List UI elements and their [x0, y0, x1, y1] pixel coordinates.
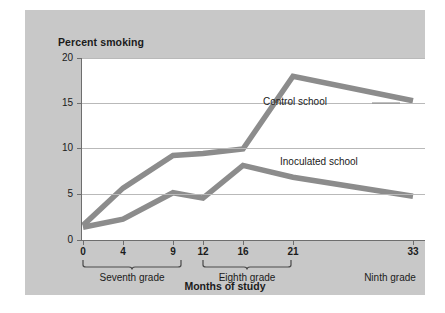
x-tick-label-16: 16	[230, 246, 256, 257]
x-tick-label-0: 0	[70, 246, 96, 257]
series-line-control	[83, 76, 413, 225]
y-tick-mark-15	[77, 103, 81, 104]
x-axis-line	[81, 240, 425, 241]
x-tick-mark-0	[83, 241, 84, 245]
x-tick-label-21: 21	[280, 246, 306, 257]
y-tick-mark-10	[77, 148, 81, 149]
y-tick-label-0: 0	[49, 234, 73, 245]
x-tick-label-33: 33	[400, 246, 426, 257]
x-tick-label-9: 9	[160, 246, 186, 257]
plot-area	[82, 58, 425, 240]
x-tick-label-4: 4	[110, 246, 136, 257]
y-tick-label-5: 5	[49, 188, 73, 199]
x-tick-mark-21	[293, 241, 294, 245]
series-line-inoculated	[83, 165, 413, 227]
y-tick-label-20: 20	[49, 52, 73, 63]
x-tick-mark-12	[203, 241, 204, 245]
x-tick-mark-4	[123, 241, 124, 245]
y-tick-label-15: 15	[49, 97, 73, 108]
gridline-15	[82, 103, 425, 104]
gridline-10	[82, 148, 425, 149]
x-tick-label-12: 12	[190, 246, 216, 257]
y-tick-mark-0	[77, 240, 81, 241]
x-tick-mark-33	[413, 241, 414, 245]
y-tick-label-10: 10	[49, 142, 73, 153]
x-tick-mark-9	[173, 241, 174, 245]
gridline-20	[82, 58, 425, 59]
chart-title: Percent smoking	[58, 36, 144, 48]
y-tick-mark-5	[77, 194, 81, 195]
gridline-5	[82, 194, 425, 195]
chart-panel: Percent smoking 20 15 10 5 0 0 4 9	[25, 10, 425, 295]
x-axis-title: Months of study	[25, 280, 425, 292]
series-label-inoculated-school: Inoculated school	[280, 156, 358, 167]
y-axis-line	[81, 58, 82, 241]
x-tick-mark-16	[243, 241, 244, 245]
series-lines	[82, 58, 425, 240]
series-label-control-school: Control school	[263, 96, 327, 107]
y-tick-mark-20	[77, 58, 81, 59]
